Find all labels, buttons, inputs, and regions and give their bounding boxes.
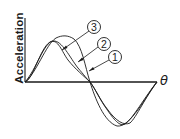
x-axis-label-theta: θ: [160, 74, 168, 88]
callout-label-3: 3: [87, 20, 101, 34]
callout-label-1: 1: [108, 50, 122, 64]
arrowhead-1: [89, 67, 95, 71]
y-axis-label: Acceleration: [12, 3, 26, 93]
callout-label-2: 2: [97, 37, 111, 51]
curve-2: [25, 41, 157, 125]
acceleration-diagram: Acceleration θ 3 2 1: [0, 0, 180, 139]
